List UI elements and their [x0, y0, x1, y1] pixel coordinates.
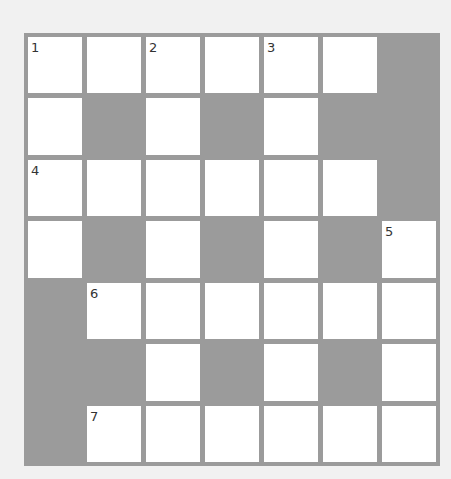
- crossword-cell[interactable]: [87, 37, 141, 93]
- crossword-cell[interactable]: [382, 283, 436, 339]
- crossword-cell[interactable]: [264, 344, 318, 400]
- clue-number: 4: [31, 164, 39, 177]
- blocked-cell: [382, 37, 436, 93]
- blocked-cell: [28, 283, 82, 339]
- crossword-cell[interactable]: [323, 283, 377, 339]
- crossword-cell[interactable]: [205, 283, 259, 339]
- blocked-cell: [205, 344, 259, 400]
- blocked-cell: [382, 160, 436, 216]
- crossword-cell[interactable]: [205, 160, 259, 216]
- crossword-cell[interactable]: 6: [87, 283, 141, 339]
- blocked-cell: [382, 98, 436, 154]
- crossword-cell[interactable]: [382, 344, 436, 400]
- clue-number: 6: [90, 287, 98, 300]
- clue-number: 5: [385, 225, 393, 238]
- crossword-cell[interactable]: [146, 344, 200, 400]
- blocked-cell: [205, 221, 259, 277]
- crossword-cell[interactable]: [323, 37, 377, 93]
- crossword-cell[interactable]: [264, 283, 318, 339]
- blocked-cell: [87, 221, 141, 277]
- crossword-cell[interactable]: [323, 406, 377, 462]
- crossword-cell[interactable]: [28, 98, 82, 154]
- blocked-cell: [87, 344, 141, 400]
- crossword-cell[interactable]: 4: [28, 160, 82, 216]
- crossword-cell[interactable]: [205, 37, 259, 93]
- clue-number: 2: [149, 41, 157, 54]
- blocked-cell: [323, 221, 377, 277]
- blocked-cell: [323, 344, 377, 400]
- blocked-cell: [323, 98, 377, 154]
- clue-number: 1: [31, 41, 39, 54]
- blocked-cell: [205, 98, 259, 154]
- clue-number: 7: [90, 410, 98, 423]
- crossword-cell[interactable]: [146, 98, 200, 154]
- crossword-cell[interactable]: [146, 406, 200, 462]
- clue-number: 3: [267, 41, 275, 54]
- crossword-cell[interactable]: 2: [146, 37, 200, 93]
- crossword-cell[interactable]: [382, 406, 436, 462]
- blocked-cell: [28, 406, 82, 462]
- crossword-cell[interactable]: [264, 160, 318, 216]
- crossword-cell[interactable]: 5: [382, 221, 436, 277]
- crossword-cell[interactable]: [205, 406, 259, 462]
- crossword-cell[interactable]: [264, 221, 318, 277]
- crossword-cell[interactable]: 1: [28, 37, 82, 93]
- crossword-cell[interactable]: [323, 160, 377, 216]
- crossword-cell[interactable]: 3: [264, 37, 318, 93]
- crossword-cell[interactable]: [264, 98, 318, 154]
- crossword-cell[interactable]: [146, 160, 200, 216]
- crossword-cell[interactable]: [264, 406, 318, 462]
- crossword-cell[interactable]: [146, 221, 200, 277]
- crossword-grid: 1234567: [24, 33, 440, 466]
- crossword-cell[interactable]: 7: [87, 406, 141, 462]
- blocked-cell: [87, 98, 141, 154]
- blocked-cell: [28, 344, 82, 400]
- crossword-cell[interactable]: [146, 283, 200, 339]
- crossword-cell[interactable]: [87, 160, 141, 216]
- crossword-cell[interactable]: [28, 221, 82, 277]
